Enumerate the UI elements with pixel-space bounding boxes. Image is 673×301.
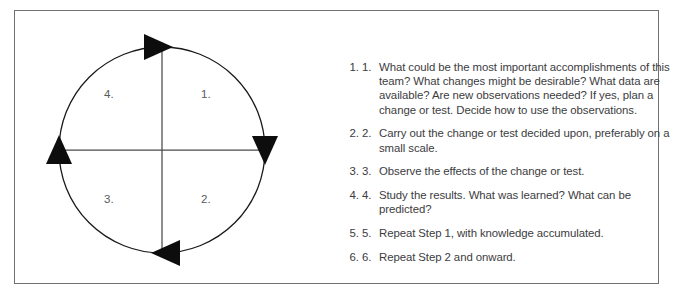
quadrant-label-bottom-left: 3. — [104, 193, 114, 205]
step-number: 3. — [362, 164, 375, 178]
list-item: 2. Carry out the change or test decided … — [362, 126, 673, 154]
list-item: 5. Repeat Step 1, with knowledge accumul… — [362, 226, 673, 240]
step-number: 1. — [362, 60, 375, 74]
step-number: 2. — [362, 126, 375, 140]
step-number: 6. — [362, 250, 375, 264]
list-item: 6. Repeat Step 2 and onward. — [362, 250, 673, 264]
bottom-arrow-icon — [151, 240, 180, 266]
step-number: 4. — [362, 188, 375, 202]
quadrant-label-top-left: 4. — [104, 88, 114, 100]
step-text: What could be the most important accompl… — [379, 60, 673, 117]
pdsa-cycle-diagram: 1. 2. 3. 4. — [40, 28, 285, 276]
steps-list: 1. What could be the most important acco… — [322, 60, 673, 264]
quadrant-label-bottom-right: 2. — [201, 193, 211, 205]
list-item: 3. Observe the effects of the change or … — [362, 164, 673, 178]
step-text: Carry out the change or test decided upo… — [379, 126, 673, 154]
step-text: Study the results. What was learned? Wha… — [379, 188, 673, 216]
step-text: Repeat Step 2 and onward. — [379, 250, 673, 264]
cycle-diagram-svg — [40, 28, 285, 276]
quadrant-label-top-right: 1. — [201, 88, 211, 100]
list-item: 4. Study the results. What was learned? … — [362, 188, 673, 216]
step-text: Repeat Step 1, with knowledge accumulate… — [379, 226, 673, 240]
step-text: Observe the effects of the change or tes… — [379, 164, 673, 178]
list-item: 1. What could be the most important acco… — [362, 60, 673, 117]
top-arrow-icon — [144, 34, 173, 60]
page-root: 1. 2. 3. 4. 1. What could be the most im… — [0, 0, 673, 301]
step-number: 5. — [362, 226, 375, 240]
